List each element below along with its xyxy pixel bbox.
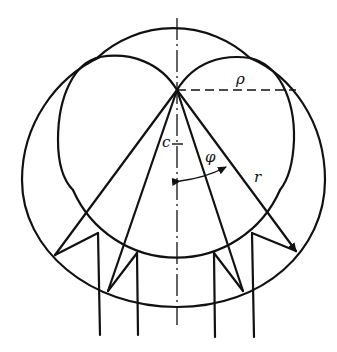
vertical-line-1 [98,233,100,335]
phi-label: φ [205,150,216,165]
ray-1 [55,90,177,255]
construction-drawing [0,0,337,352]
ray-r-arrow [177,90,296,251]
main-circle-top-arc [97,28,250,58]
vertical-line-3 [214,253,215,337]
vertical-line-2 [137,253,138,335]
connector-right-1 [214,253,243,291]
diagram: ρ c φ r [0,0,337,352]
ray-2 [108,90,177,291]
connector-left-1 [55,233,98,255]
ray-3 [177,90,243,291]
rho-label: ρ [236,72,245,87]
c-label: c [162,135,170,150]
r-label: r [254,170,261,185]
connector-left-2 [108,253,137,291]
vertical-line-4 [252,233,254,337]
